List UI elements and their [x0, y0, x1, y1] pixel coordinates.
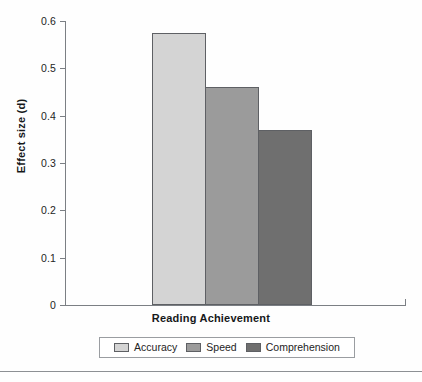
- x-axis-end-tick: [405, 299, 406, 306]
- y-tick-label: 0.6: [10, 16, 56, 27]
- bottom-rule: [0, 371, 422, 372]
- legend-item-comprehension: Comprehension: [246, 342, 340, 353]
- bar-comprehension: [258, 130, 312, 305]
- legend-item-accuracy: Accuracy: [114, 342, 177, 353]
- legend-swatch-icon: [114, 343, 129, 352]
- y-tick-label: 0: [10, 300, 56, 311]
- y-axis-title: Effect size (d): [15, 71, 27, 201]
- legend-label-comprehension: Comprehension: [266, 342, 340, 353]
- bar-accuracy: [152, 33, 206, 305]
- x-axis-title: Reading Achievement: [66, 312, 356, 324]
- plot-area: [66, 21, 405, 305]
- legend-swatch-icon: [246, 343, 261, 352]
- x-axis-line: [66, 305, 406, 306]
- y-tick-label: 0.2: [10, 205, 56, 216]
- bar-speed: [205, 87, 259, 305]
- legend-label-speed: Speed: [206, 342, 236, 353]
- bar-chart-figure: 0.60.50.40.30.20.10 Effect size (d) Read…: [0, 0, 422, 382]
- legend-label-accuracy: Accuracy: [134, 342, 177, 353]
- legend-item-speed: Speed: [186, 342, 236, 353]
- legend-swatch-icon: [186, 343, 201, 352]
- y-tick-label: 0.1: [10, 253, 56, 264]
- chart-legend: Accuracy Speed Comprehension: [99, 337, 355, 358]
